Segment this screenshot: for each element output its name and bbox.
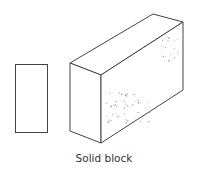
speckle-dot [116, 113, 117, 114]
speckle-dot [127, 94, 128, 95]
speckle-dot [168, 37, 170, 39]
speckle-dot [161, 46, 162, 47]
speckle-dot [147, 102, 148, 103]
speckle-dot [109, 121, 110, 122]
speckle-dot [127, 110, 128, 111]
speckle-dot [163, 56, 164, 57]
speckle-dot [162, 40, 163, 41]
speckle-dot [145, 108, 146, 109]
speckle-dot [174, 48, 175, 49]
speckle-dot [110, 107, 111, 108]
speckle-dot [112, 114, 113, 115]
isometric-block [70, 14, 183, 143]
speckle-dot [123, 100, 124, 101]
speckle-dot [170, 44, 171, 45]
speckle-dot [140, 103, 141, 104]
speckle-dot [112, 97, 113, 98]
speckle-dot [125, 106, 126, 107]
speckle-dot [138, 100, 140, 102]
speckle-dot [125, 122, 126, 123]
speckle-dot [142, 97, 143, 98]
speckle-dot [125, 104, 126, 105]
speckle-dot [114, 105, 115, 106]
speckle-dot [107, 102, 108, 103]
speckle-dot [161, 51, 162, 52]
speckle-dot [165, 47, 166, 48]
speckle-dot [165, 56, 166, 57]
speckle-dot [149, 106, 150, 107]
speckle-dot [109, 120, 110, 121]
speckle-dot [111, 120, 112, 121]
figure-caption: Solid block [0, 152, 201, 164]
speckle-dot [135, 119, 136, 120]
speckle-dot [111, 105, 113, 107]
speckle-dot [124, 107, 125, 108]
speckle-dot [121, 94, 122, 95]
speckle-dot [173, 40, 174, 41]
speckle-dot [177, 38, 178, 39]
speckle-dot [149, 112, 150, 113]
speckle-dot [116, 115, 117, 116]
speckle-dot [109, 94, 110, 95]
speckle-dot [126, 95, 127, 96]
speckle-dot [174, 57, 175, 58]
speckle-dot [145, 100, 146, 101]
speckle-dot [135, 101, 136, 102]
speckle-dot [177, 52, 178, 53]
end-view-rectangle [16, 65, 48, 133]
speckle-dot [117, 116, 118, 117]
speckle-dot [125, 94, 127, 96]
speckle-dot [106, 103, 107, 104]
speckle-dot [144, 107, 145, 108]
speckle-dot [137, 112, 138, 113]
speckle-dot [127, 105, 128, 106]
speckle-dot [138, 112, 139, 113]
speckle-dot [178, 50, 179, 51]
speckle-dot [133, 94, 134, 95]
speckle-dot [134, 96, 135, 97]
speckle-dot [130, 102, 131, 103]
speckle-dot [148, 121, 149, 122]
solid-block-diagram [0, 0, 201, 177]
speckle-dot [171, 54, 172, 55]
speckle-dot [138, 102, 140, 104]
speckle-dot [142, 119, 143, 120]
speckle-dot [167, 36, 168, 37]
speckle-dot [119, 92, 120, 93]
speckle-dot [126, 119, 127, 120]
speckle-dot [167, 40, 168, 41]
block-front-face [70, 63, 101, 143]
speckle-dot [115, 101, 116, 102]
speckle-dot [116, 106, 117, 107]
speckle-dot [178, 54, 179, 55]
speckle-dot [115, 104, 116, 105]
speckle-dot [132, 104, 133, 105]
speckle-dot [106, 116, 107, 117]
speckle-dot [175, 41, 176, 42]
speckle-dot [168, 60, 169, 61]
speckle-dot [134, 94, 135, 95]
speckle-dot [109, 92, 110, 93]
speckle-dot [123, 113, 124, 114]
speckle-dot [130, 107, 131, 108]
speckle-dot [140, 121, 141, 122]
speckle-dot [107, 121, 109, 123]
speckle-dot [127, 120, 128, 121]
